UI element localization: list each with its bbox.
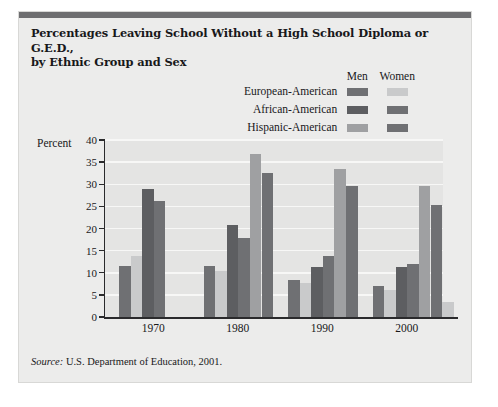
bar-1970-african-american-men — [142, 189, 154, 317]
y-tick-label-40: 40 — [51, 134, 97, 146]
bar-1990-african-american-women — [323, 256, 335, 317]
y-tick-0: 0 — [47, 311, 97, 323]
bar-1990-hispanic-american-women — [346, 186, 358, 317]
bar-1980-hispanic-american-men — [250, 154, 262, 317]
y-tick-mark-5 — [99, 294, 104, 295]
y-tick-40: 40 — [47, 134, 97, 146]
source-prefix: Source: — [31, 356, 63, 367]
bar-2000-hispanic-american-men — [419, 186, 431, 317]
bar-1970-european-american-men — [119, 266, 131, 317]
bar-1970-african-american-women — [154, 201, 166, 317]
y-tick-20: 20 — [47, 223, 97, 235]
gridline-40 — [105, 139, 443, 141]
x-axis-line — [104, 317, 458, 319]
y-tick-mark-0 — [99, 316, 104, 317]
plot-area-wrapper: Percent 05101520253035401970198019902000 — [19, 12, 471, 382]
y-tick-mark-25 — [99, 206, 104, 207]
y-tick-label-15: 15 — [51, 245, 97, 257]
source-text: U.S. Department of Education, 2001. — [66, 356, 222, 367]
bar-2000-hispanic-american-women — [431, 205, 443, 317]
bar-1980-hispanic-american-women — [262, 173, 274, 317]
bar-1990-hispanic-american-men — [334, 169, 346, 317]
y-tick-5: 5 — [47, 289, 97, 301]
y-tick-mark-15 — [99, 250, 104, 251]
bar-2000-european-american-women — [384, 290, 396, 317]
x-tick-label-1970: 1970 — [123, 322, 183, 334]
bar-1970-european-american-women — [131, 256, 143, 317]
bar-2000-african-american-women — [407, 264, 419, 317]
bar-2000-african-american-men — [396, 267, 408, 317]
x-tick-label-1990: 1990 — [292, 322, 352, 334]
gridline-30 — [105, 184, 443, 186]
bar-2000-asian-american-men — [442, 302, 454, 317]
plot-area — [105, 140, 443, 317]
bar-1980-european-american-men — [204, 266, 216, 317]
y-tick-label-0: 0 — [51, 311, 97, 323]
source-note: Source: U.S. Department of Education, 20… — [31, 356, 222, 367]
y-tick-30: 30 — [47, 178, 97, 190]
bar-1990-european-american-men — [288, 280, 300, 317]
y-tick-mark-30 — [99, 184, 104, 185]
y-tick-35: 35 — [47, 156, 97, 168]
y-tick-mark-20 — [99, 228, 104, 229]
y-tick-10: 10 — [47, 267, 97, 279]
y-tick-label-5: 5 — [51, 289, 97, 301]
y-tick-label-20: 20 — [51, 223, 97, 235]
figure-panel: Percentages Leaving School Without a Hig… — [19, 12, 471, 382]
bar-1980-african-american-men — [227, 225, 239, 317]
bar-1980-african-american-women — [238, 238, 250, 317]
y-tick-mark-40 — [99, 139, 104, 140]
y-tick-mark-35 — [99, 161, 104, 162]
x-tick-label-2000: 2000 — [377, 322, 437, 334]
y-tick-label-25: 25 — [51, 200, 97, 212]
y-tick-15: 15 — [47, 245, 97, 257]
y-tick-label-10: 10 — [51, 267, 97, 279]
bar-2000-european-american-men — [373, 286, 385, 317]
bar-1990-african-american-men — [311, 267, 323, 317]
y-tick-label-35: 35 — [51, 156, 97, 168]
y-tick-mark-10 — [99, 272, 104, 273]
gridline-35 — [105, 161, 443, 163]
bar-1990-european-american-women — [300, 283, 312, 318]
bar-1980-european-american-women — [215, 271, 227, 317]
y-tick-label-30: 30 — [51, 178, 97, 190]
x-tick-label-1980: 1980 — [208, 322, 268, 334]
y-tick-25: 25 — [47, 200, 97, 212]
